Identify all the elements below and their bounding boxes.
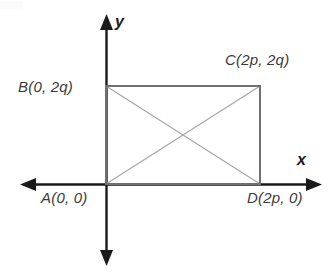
vertex-label-c: C(2p, 2q) <box>225 52 289 67</box>
y-axis-label: y <box>115 14 124 30</box>
vertex-label-a: A(0, 0) <box>41 190 87 205</box>
y-axis-top-arrowhead <box>100 14 113 30</box>
vertex-label-b: B(0, 2q) <box>18 79 73 94</box>
scan-artifact <box>0 1 22 9</box>
diagonals-group <box>106 86 260 184</box>
y-axis-bottom-arrowhead <box>100 250 113 266</box>
coordinate-plane-drawing <box>0 0 334 273</box>
x-axis-label: x <box>297 152 306 168</box>
vertex-label-d: D(2p, 0) <box>247 190 303 205</box>
x-axis-right-arrowhead <box>306 178 322 191</box>
geometry-figure: B(0, 2q) C(2p, 2q) A(0, 0) D(2p, 0) x y <box>0 0 334 273</box>
x-axis-left-arrowhead <box>20 178 36 191</box>
